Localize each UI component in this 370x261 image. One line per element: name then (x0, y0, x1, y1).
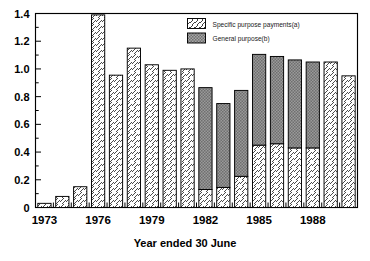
bar-segment-specific-purpose (235, 176, 248, 207)
bar-segment-specific-purpose (74, 187, 87, 208)
bar-group (145, 65, 158, 208)
bar-segment-specific-purpose (306, 148, 319, 208)
legend-label: General purpose(b) (213, 35, 270, 43)
bar-segment-general-purpose (270, 56, 283, 143)
y-tick-label: 0.6 (14, 118, 29, 130)
bar-group (288, 60, 301, 208)
y-tick-label: 1.0 (14, 63, 29, 75)
bar-segment-specific-purpose (127, 48, 140, 207)
y-tick-label: 0.4 (14, 146, 30, 158)
x-tick-label: 1973 (32, 214, 58, 226)
hatch-swatch (188, 19, 206, 29)
y-tick-label: 1.4 (14, 8, 30, 20)
bar-segment-specific-purpose (163, 70, 176, 207)
bar-group (342, 76, 355, 208)
bar-group (91, 15, 104, 208)
x-tick-label: 1988 (300, 214, 326, 226)
bar-segment-specific-purpose (270, 144, 283, 208)
bar-segment-specific-purpose (91, 15, 104, 208)
bar-segment-general-purpose (235, 90, 248, 176)
bar-segment-specific-purpose (288, 148, 301, 208)
bar-group (56, 196, 69, 207)
bar-segment-specific-purpose (324, 62, 337, 208)
bar-group (127, 48, 140, 207)
bar-segment-specific-purpose (109, 75, 122, 207)
y-tick-label: 1.2 (14, 35, 29, 47)
x-tick-label: 1982 (193, 214, 219, 226)
bar-group (74, 187, 87, 208)
bar-group (181, 69, 194, 208)
bar-group (324, 62, 337, 208)
x-tick-label: 1985 (246, 214, 272, 226)
bar-segment-specific-purpose (38, 203, 51, 207)
legend-label: Specific purpose payments(a) (213, 21, 300, 29)
bar-group (235, 90, 248, 207)
bar-segment-general-purpose (217, 104, 230, 188)
bar-segment-specific-purpose (252, 145, 265, 207)
bar-segment-specific-purpose (181, 69, 194, 208)
y-tick-label: 0.2 (14, 174, 29, 186)
bar-chart: 00.20.40.60.81.01.21.4 19731976197919821… (0, 0, 370, 261)
bar-group (217, 104, 230, 208)
bar-segment-specific-purpose (342, 76, 355, 208)
bar-group (252, 54, 265, 207)
bar-segment-general-purpose (288, 60, 301, 148)
x-axis-label: Year ended 30 June (134, 237, 237, 249)
bar-segment-general-purpose (306, 62, 319, 148)
bar-segment-specific-purpose (145, 65, 158, 208)
x-tick-label: 1979 (139, 214, 165, 226)
stipple-swatch (188, 33, 206, 43)
bar-group (38, 203, 51, 207)
bar-group (270, 56, 283, 207)
bar-segment-specific-purpose (56, 196, 69, 207)
bar-group (306, 62, 319, 208)
x-tick-label: 1976 (85, 214, 111, 226)
y-tick-label: 0.8 (14, 91, 29, 103)
bar-group (199, 88, 212, 208)
bar-segment-general-purpose (199, 88, 212, 190)
chart-canvas: 00.20.40.60.81.01.21.4 19731976197919821… (0, 0, 370, 261)
bar-segment-specific-purpose (217, 187, 230, 207)
y-tick-label: 0 (23, 202, 29, 214)
bar-segment-specific-purpose (199, 189, 212, 207)
bar-segment-general-purpose (252, 54, 265, 145)
bar-group (109, 75, 122, 207)
bar-group (163, 70, 176, 207)
